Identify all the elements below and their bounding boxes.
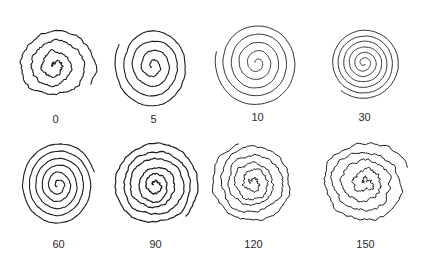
panel-label: 60: [6, 238, 111, 250]
panel-label: 150: [313, 238, 418, 250]
panel-label: 10: [205, 111, 310, 123]
spiral-panel-90: 90: [103, 129, 208, 258]
spiral-drawing: [205, 0, 310, 110]
spiral-drawing: [101, 0, 206, 110]
spiral-drawing: [103, 129, 208, 239]
panel-label: 120: [201, 238, 306, 250]
spiral-panel-60: 60: [6, 129, 111, 258]
spiral-panel-10: 10: [205, 0, 310, 129]
panel-label: 5: [101, 113, 206, 125]
spiral-drawing: [201, 129, 306, 239]
spiral-panel-0: 0: [3, 0, 108, 129]
spiral-panel-30: 30: [312, 0, 417, 129]
spiral-panel-5: 5: [101, 0, 206, 129]
panel-label: 30: [312, 111, 417, 123]
spiral-drawing: [313, 129, 418, 239]
spiral-panel-120: 120: [201, 129, 306, 258]
spiral-drawing: [3, 0, 108, 110]
panel-label: 0: [3, 113, 108, 125]
spiral-figure: 0 5 10 30 60 90 120 150: [0, 0, 422, 258]
spiral-panel-150: 150: [313, 129, 418, 258]
spiral-drawing: [312, 0, 417, 110]
spiral-drawing: [6, 129, 111, 239]
panel-label: 90: [103, 238, 208, 250]
